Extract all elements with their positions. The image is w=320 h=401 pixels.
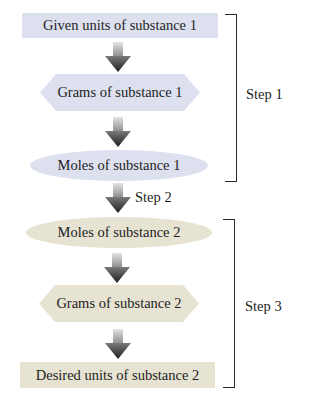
node-moles-substance-1: Moles of substance 1 xyxy=(30,150,208,181)
step-1-label: Step 1 xyxy=(246,86,283,103)
node-grams-substance-1: Grams of substance 1 xyxy=(40,74,200,111)
node-label: Grams of substance 2 xyxy=(56,295,181,312)
node-desired-units-substance-2: Desired units of substance 2 xyxy=(20,362,215,388)
down-arrow-icon xyxy=(105,329,131,359)
node-label: Moles of substance 1 xyxy=(58,157,181,174)
node-given-units-substance-1: Given units of substance 1 xyxy=(22,13,218,38)
step-3-bracket xyxy=(223,219,235,388)
node-label: Moles of substance 2 xyxy=(58,224,181,241)
step-1-bracket xyxy=(225,14,237,182)
node-grams-substance-2: Grams of substance 2 xyxy=(39,285,199,322)
step-3-label: Step 3 xyxy=(245,298,282,315)
down-arrow-icon xyxy=(105,117,131,147)
node-label: Given units of substance 1 xyxy=(43,17,197,34)
down-arrow-icon xyxy=(105,42,131,72)
node-label: Desired units of substance 2 xyxy=(36,367,200,384)
down-arrow-icon xyxy=(104,253,130,283)
node-moles-substance-2: Moles of substance 2 xyxy=(26,217,212,248)
step-2-label: Step 2 xyxy=(135,189,172,206)
down-arrow-icon xyxy=(105,183,131,213)
node-label: Grams of substance 1 xyxy=(57,84,182,101)
